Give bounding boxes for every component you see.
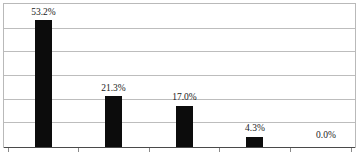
x-axis-tick xyxy=(351,148,352,152)
x-axis-line xyxy=(4,147,355,148)
bar-chart: 53.2% 21.3% 17.0% 4.3% 0.0% xyxy=(0,0,362,156)
x-axis-tick xyxy=(149,148,150,152)
plot-area: 53.2% 21.3% 17.0% 4.3% 0.0% xyxy=(4,4,355,148)
gridline xyxy=(4,75,355,76)
bar-label-3: 17.0% xyxy=(168,92,201,103)
bar-label-2: 21.3% xyxy=(97,83,130,94)
x-axis-tick xyxy=(219,148,220,152)
bar-1[interactable] xyxy=(35,20,52,147)
x-axis-tick xyxy=(78,148,79,152)
gridline xyxy=(4,51,355,52)
x-axis-tick xyxy=(8,148,9,152)
x-axis-tick xyxy=(290,148,291,152)
bar-4[interactable] xyxy=(246,137,263,147)
gridline xyxy=(4,28,355,29)
bar-label-4: 4.3% xyxy=(240,123,270,134)
bar-3[interactable] xyxy=(176,106,193,147)
bar-label-5: 0.0% xyxy=(311,130,341,141)
bar-label-1: 53.2% xyxy=(27,7,60,18)
bar-2[interactable] xyxy=(105,96,122,147)
